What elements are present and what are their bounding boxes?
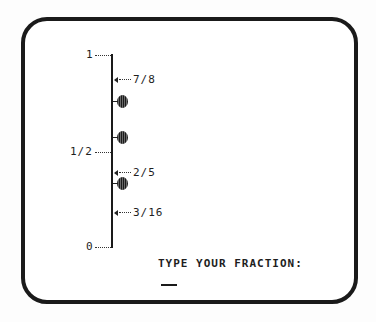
arrow-left-icon bbox=[114, 77, 118, 83]
guess-blob-icon bbox=[117, 131, 128, 144]
marker-label: 2/5 bbox=[133, 167, 156, 178]
label-zero: 0 bbox=[86, 241, 94, 252]
arrow-left-icon bbox=[114, 170, 118, 176]
tick-zero bbox=[95, 247, 111, 248]
marker-3-16: 3/16 bbox=[114, 207, 164, 218]
guess-blob-icon bbox=[117, 177, 128, 190]
tick-one bbox=[95, 55, 111, 56]
text-cursor[interactable] bbox=[161, 284, 177, 286]
arrow-left-icon bbox=[114, 210, 118, 216]
prompt-text: TYPE YOUR FRACTION: bbox=[158, 258, 303, 270]
marker-7-8: 7/8 bbox=[114, 74, 156, 85]
label-one: 1 bbox=[86, 49, 94, 60]
guess-blob-icon bbox=[117, 95, 128, 108]
label-half: 1/2 bbox=[70, 146, 93, 157]
screen: 1 1/2 0 7/8 2/5 3/16 TYPE YOUR FRACTION: bbox=[0, 0, 376, 322]
marker-label: 7/8 bbox=[133, 74, 156, 85]
tick-half bbox=[95, 152, 111, 153]
marker-label: 3/16 bbox=[133, 207, 164, 218]
number-line-axis bbox=[111, 54, 113, 248]
